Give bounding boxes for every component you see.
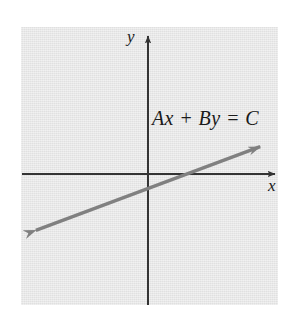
graph-canvas [0, 0, 293, 318]
x-axis-label: x [268, 177, 276, 194]
y-axis-label: y [127, 28, 135, 45]
linear-equation-figure: y x Ax + By = C [0, 0, 293, 318]
equation-annotation: Ax + By = C [152, 108, 259, 128]
